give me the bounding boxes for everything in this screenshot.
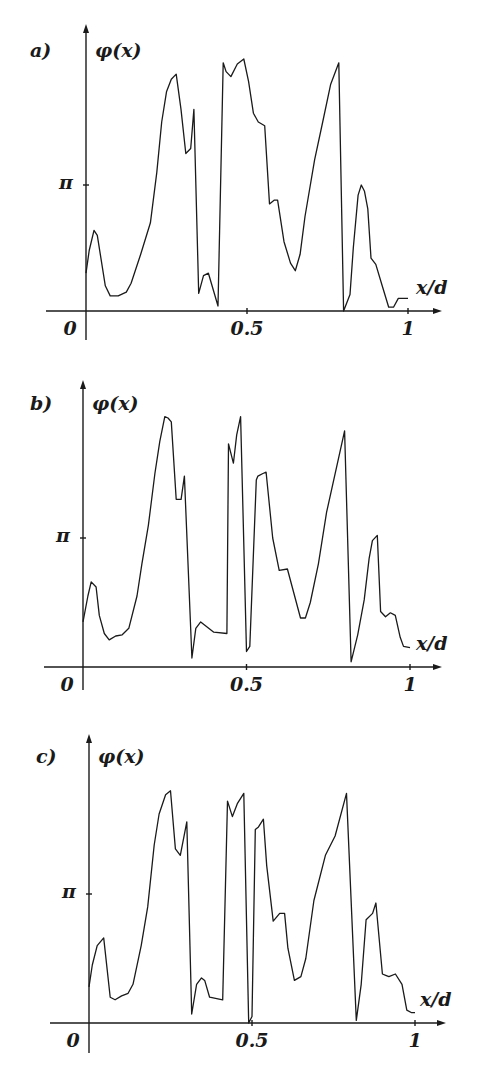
panel-a-x-tick-label: 0 <box>63 317 76 339</box>
panel-b-x-tick-label: 0.5 <box>230 673 263 695</box>
panel-c-phase-curve <box>89 791 415 1023</box>
panel-a-x-tick-label: 0.5 <box>230 317 263 339</box>
panel-c-x-tick-label: 1 <box>408 1029 421 1051</box>
panel-a-label: a) <box>30 39 51 61</box>
panel-a-x-axis-arrow <box>433 308 442 314</box>
panel-c-y-axis-title: φ(x) <box>98 745 145 767</box>
panel-c-y-axis-arrow <box>86 734 92 743</box>
panel-c-x-tick-label: 0.5 <box>235 1029 268 1051</box>
panel-c-y-tick-label-pi: π <box>61 880 77 902</box>
panel-a-x-axis-title: x/d <box>415 276 448 298</box>
panel-b-x-tick-label: 1 <box>403 673 416 695</box>
panel-a-y-tick-label-pi: π <box>58 171 74 193</box>
panel-b-label: b) <box>30 392 52 414</box>
panel-b-x-axis-arrow <box>433 664 442 670</box>
panel-a-phase-curve <box>86 59 408 311</box>
panel-c-x-axis-arrow <box>437 1020 446 1026</box>
panel-a-y-axis-arrow <box>83 24 89 33</box>
panel-a-y-axis-title: φ(x) <box>95 39 142 61</box>
panel-b-x-axis-title: x/d <box>415 632 448 654</box>
panel-b-y-axis-arrow <box>80 380 86 389</box>
panel-b-phase-curve <box>83 417 410 662</box>
panel-c-x-tick-label: 0 <box>66 1029 79 1051</box>
panel-b-y-tick-label-pi: π <box>55 524 71 546</box>
panel-c-label: c) <box>36 745 57 767</box>
figure: 00.51πa)φ(x)x/d00.51πb)φ(x)x/d00.51πc)φ(… <box>0 0 492 1077</box>
panel-a-x-tick-label: 1 <box>401 317 414 339</box>
panel-c-x-axis-title: x/d <box>419 988 452 1010</box>
panel-b-y-axis-title: φ(x) <box>92 392 139 414</box>
panel-b-x-tick-label: 0 <box>60 673 73 695</box>
